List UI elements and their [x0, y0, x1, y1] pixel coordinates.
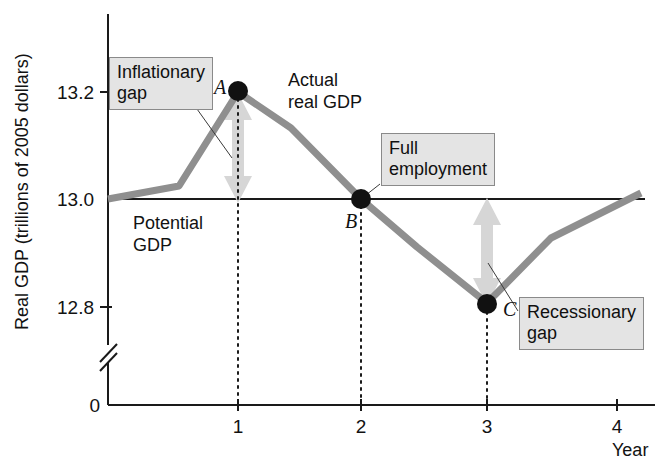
y-axis-title: Real GDP (trillions of 2005 dollars) [12, 53, 32, 330]
x-tick-label-2: 2 [356, 416, 367, 437]
y-tick-label-13-0: 13.0 [57, 189, 94, 210]
callout-inflationary-gap: Inflationary gap [109, 57, 213, 110]
data-point-c [477, 294, 497, 314]
actual-real-gdp-curve [108, 92, 641, 303]
x-tick-label-4: 4 [612, 416, 623, 437]
y-tick-label-13-2: 13.2 [57, 82, 94, 103]
potential-gdp-label-line1: Potential [133, 213, 203, 233]
point-label-c: C [503, 298, 517, 320]
gdp-gap-figure: 13.2 13.0 12.8 0 1 2 3 4 Year Real GDP (… [0, 0, 664, 462]
chart-canvas: 13.2 13.0 12.8 0 1 2 3 4 Year Real GDP (… [0, 0, 664, 462]
x-axis-title: Year [612, 440, 648, 460]
potential-gdp-label-line2: GDP [133, 235, 172, 255]
point-label-a: A [212, 76, 227, 98]
point-label-b: B [345, 210, 357, 232]
actual-real-gdp-label-line1: Actual [288, 70, 338, 90]
y-tick-label-12-8: 12.8 [57, 297, 94, 318]
data-point-b [351, 189, 371, 209]
x-tick-label-3: 3 [482, 416, 493, 437]
callout-full-employment: Full employment [381, 133, 495, 186]
data-point-a [228, 81, 248, 101]
x-tick-label-1: 1 [233, 416, 244, 437]
axis-break-icon [100, 344, 117, 362]
origin-label: 0 [89, 395, 100, 416]
actual-real-gdp-label-line2: real GDP [288, 92, 362, 112]
callout-recessionary-gap: Recessionary gap [519, 297, 644, 350]
